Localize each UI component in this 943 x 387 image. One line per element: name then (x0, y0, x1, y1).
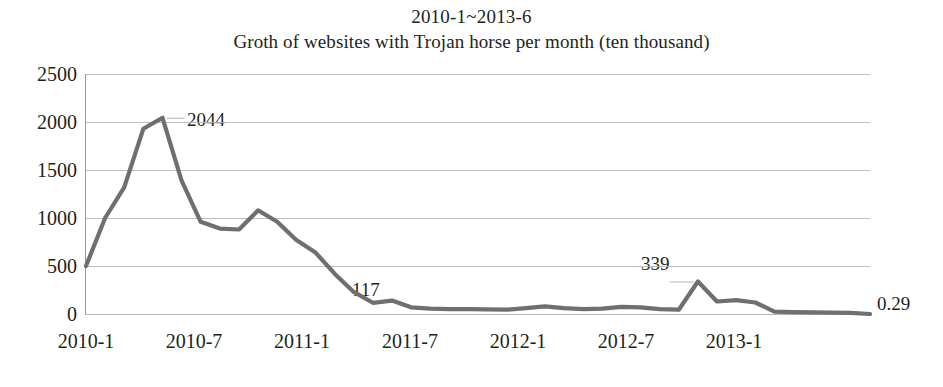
annotation-leader-lines (166, 118, 693, 282)
series-line-trojan-websites (86, 118, 870, 314)
gridlines (85, 75, 870, 315)
chart-figure: 2010-1~2013-6 Groth of websites with Tro… (0, 0, 943, 387)
chart-canvas (0, 0, 943, 387)
plot-area: 2500 2000 1500 1000 500 0 2010-1 2010-7 … (0, 0, 943, 387)
